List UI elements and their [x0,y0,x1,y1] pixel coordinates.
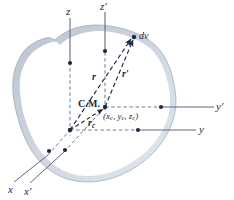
coord-open-x: (x [103,111,110,121]
x-axis-label: x [8,184,13,195]
center-of-mass-label: C.M. [78,99,100,109]
y-axis-surface-dot [136,128,140,132]
center-of-mass-coordinates: (xc, yc, zc) [103,112,138,122]
zprime-axis-surface-dot [103,49,107,53]
figure-canvas [0,0,234,200]
z-axis-surface-dot [68,61,72,65]
vector-rc-label: rc [88,118,95,130]
center-of-mass-dot [103,105,107,109]
yprime-axis-label: y′ [216,101,223,112]
x-axis-line-solid [14,155,48,182]
xprime-axis-label: x′ [24,186,31,197]
coord-close-paren: ) [135,111,138,121]
vector-rc-subscript: c [92,122,95,130]
vector-r-label: r [92,72,96,82]
yprime-axis-surface-dot [159,105,163,109]
volume-element-dot [132,35,136,39]
zprime-axis-label: z′ [100,1,107,12]
xprime-axis-surface-dot [63,148,67,152]
vector-rprime-label: r′ [122,69,129,79]
volume-element-label: dv [139,31,148,41]
y-axis-label: y [199,124,204,135]
z-axis-label: z [66,6,70,17]
origin-dot [68,128,72,132]
center-of-mass-figure: z z′ y′ y x x′ r r′ rc C.M. (xc, yc, zc)… [0,0,234,200]
x-axis-surface-dot [47,149,51,153]
